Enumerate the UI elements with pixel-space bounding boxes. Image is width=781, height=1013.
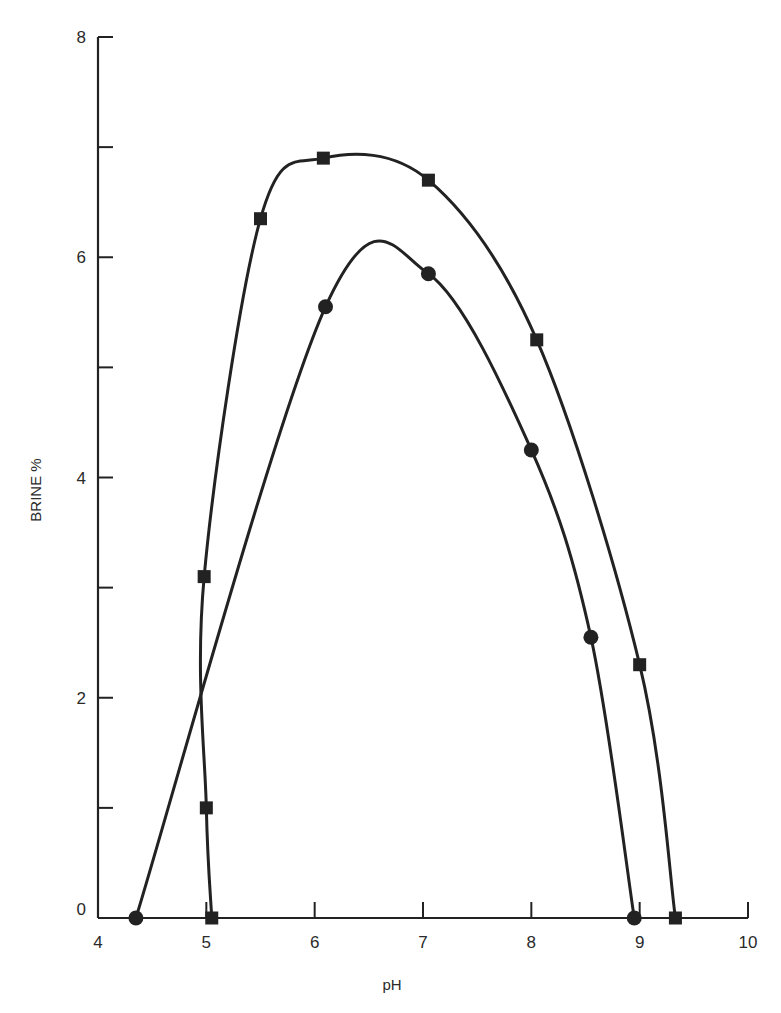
- square-marker: [205, 912, 218, 925]
- square-marker: [422, 174, 435, 187]
- y-tick-label: 8: [77, 28, 86, 47]
- square-marker: [669, 912, 682, 925]
- circle-marker: [627, 911, 642, 926]
- square-marker: [317, 152, 330, 165]
- y-tick-label: 0: [77, 900, 86, 919]
- curves: [136, 154, 676, 918]
- circle-marker: [128, 911, 143, 926]
- circle-marker: [318, 299, 333, 314]
- square-marker: [254, 212, 267, 225]
- square-marker: [530, 333, 543, 346]
- brine-ph-chart: 0246845678910 pH BRINE %: [0, 0, 781, 1013]
- square-marker: [198, 570, 211, 583]
- square-marker: [200, 801, 213, 814]
- x-tick-label: 4: [93, 933, 102, 952]
- x-tick-label: 6: [310, 933, 319, 952]
- y-axis-title: BRINE %: [27, 458, 44, 521]
- markers: [128, 152, 682, 926]
- y-tick-label: 4: [77, 469, 86, 488]
- square-marker: [633, 658, 646, 671]
- x-tick-label: 10: [739, 933, 758, 952]
- circle-marker: [421, 266, 436, 281]
- x-tick-label: 5: [202, 933, 211, 952]
- y-tick-label: 6: [77, 248, 86, 267]
- axes: 0246845678910: [77, 28, 758, 952]
- x-tick-label: 9: [635, 933, 644, 952]
- circle-marker: [524, 442, 539, 457]
- y-tick-label: 2: [77, 689, 86, 708]
- circle-marker: [583, 630, 598, 645]
- x-axis-title: pH: [382, 976, 401, 993]
- x-tick-label: 7: [418, 933, 427, 952]
- x-tick-label: 8: [527, 933, 536, 952]
- square-series-curve: [200, 154, 675, 918]
